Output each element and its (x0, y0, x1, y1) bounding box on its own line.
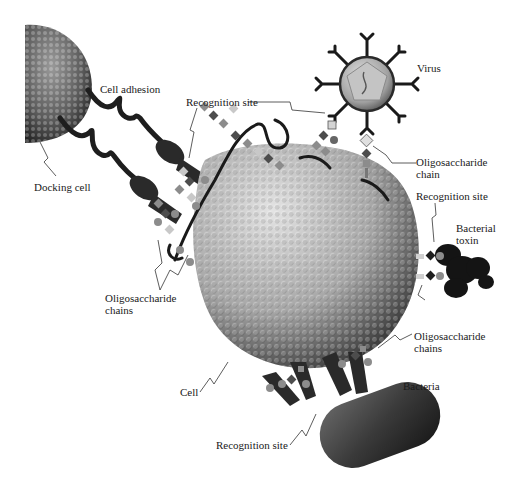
diagram-canvas (0, 0, 520, 502)
leader-cell (200, 362, 228, 392)
leader-oligosaccharide-chain-virus (373, 146, 416, 163)
label-bacteria: Bacteria (403, 380, 440, 392)
label-bacterial-toxin: Bacterial toxin (456, 222, 496, 246)
main-cell (193, 143, 419, 368)
label-recognition-site-toxin: Recognition site (416, 190, 488, 202)
leader-recognition-site-toxin (432, 203, 436, 242)
leader-recognition-site-top (189, 108, 197, 158)
leader-oligosaccharide-chains-left-a (155, 240, 162, 290)
label-virus: Virus (417, 62, 441, 74)
label-recognition-site-bottom: Recognition site (216, 439, 288, 451)
bacterial-toxin (435, 244, 494, 298)
label-docking-cell: Docking cell (34, 181, 91, 193)
docking-cell (25, 25, 92, 143)
toxin-binding-chains (416, 251, 444, 281)
bacteria (262, 352, 450, 477)
label-oligosaccharide-chain-virus: Oligosaccharide chain (416, 156, 487, 180)
label-cell: Cell (180, 386, 198, 398)
leader-recognition-site-virus (248, 102, 325, 113)
label-recognition-site-top: Recognition site (186, 96, 258, 108)
virus (316, 34, 418, 134)
leader-recognition-site-bottom (290, 414, 316, 445)
label-oligosaccharide-chains-left: Oligosaccharide chains (105, 292, 176, 316)
label-cell-adhesion: Cell adhesion (100, 83, 160, 95)
cell-recognition-diagram: Cell adhesion Docking cell Recognition s… (0, 0, 520, 502)
leader-oligosaccharide-chains-right-a (418, 285, 425, 300)
label-oligosaccharide-chains-right: Oligosaccharide chains (414, 330, 485, 354)
leader-docking-cell (40, 142, 56, 176)
